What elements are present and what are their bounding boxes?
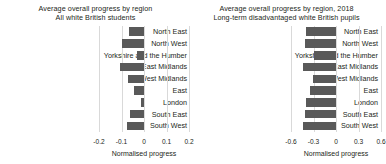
bar bbox=[122, 39, 144, 48]
bar bbox=[134, 86, 144, 95]
chart-subtitle-right: Long-term disadvantaged white British pu… bbox=[191, 13, 382, 22]
bar bbox=[310, 86, 336, 95]
bar bbox=[141, 98, 144, 107]
x-axis-title-right: Normalised progress bbox=[304, 149, 369, 158]
chart-title-block-right: Average overall progress by region, 2018… bbox=[191, 0, 382, 23]
gridline--0.2 bbox=[99, 26, 100, 132]
bar bbox=[130, 110, 144, 119]
plot-area-right: North EastNorth WestYorkshire and the Hu… bbox=[191, 26, 382, 132]
bar bbox=[305, 110, 337, 119]
chart-title-block-left: Average overall progress by region All w… bbox=[0, 0, 191, 23]
chart-subtitle-left: All white British students bbox=[0, 13, 191, 22]
x-tick-label: 0 bbox=[334, 138, 338, 146]
gridline--0.6 bbox=[291, 26, 292, 132]
gridline-0.2 bbox=[189, 26, 190, 132]
chart-panel-right: Average overall progress by region, 2018… bbox=[191, 0, 382, 164]
bar bbox=[137, 51, 144, 60]
bar bbox=[314, 51, 337, 60]
x-tick-label: 0.6 bbox=[376, 138, 385, 146]
axes-left bbox=[99, 26, 189, 132]
bar bbox=[306, 98, 336, 107]
x-axis-title-left: Normalised progress bbox=[112, 149, 177, 158]
gridline-0.6 bbox=[381, 26, 382, 132]
bar bbox=[120, 63, 144, 72]
chart-title-right: Average overall progress by region, 2018 bbox=[191, 4, 382, 13]
x-tick-label: -0.6 bbox=[285, 138, 296, 146]
x-tick-label: 0.3 bbox=[354, 138, 363, 146]
bar bbox=[306, 27, 336, 36]
x-tick-labels-left: -0.2-0.100.10.2 bbox=[0, 138, 191, 148]
chart-title-left: Average overall progress by region bbox=[0, 4, 191, 13]
x-tick-label: 0.1 bbox=[162, 138, 171, 146]
chart-panel-left: Average overall progress by region All w… bbox=[0, 0, 191, 164]
gridline-0.1 bbox=[167, 26, 168, 132]
x-tick-label: -0.2 bbox=[93, 138, 104, 146]
plot-area-left: North EastNorth WestYorkshire and the Hu… bbox=[0, 26, 191, 132]
x-tick-label: -0.3 bbox=[308, 138, 319, 146]
x-tick-label: -0.1 bbox=[116, 138, 127, 146]
gridline-0 bbox=[336, 26, 337, 132]
bar bbox=[303, 63, 336, 72]
bar bbox=[128, 75, 144, 84]
x-tick-label: 0 bbox=[142, 138, 146, 146]
gridline-0.3 bbox=[359, 26, 360, 132]
bar bbox=[313, 75, 336, 84]
bar bbox=[129, 27, 144, 36]
bar bbox=[127, 122, 144, 131]
gridline-0 bbox=[144, 26, 145, 132]
bar bbox=[305, 39, 337, 48]
x-tick-labels-right: -0.6-0.300.30.6 bbox=[191, 138, 382, 148]
bar bbox=[303, 122, 336, 131]
